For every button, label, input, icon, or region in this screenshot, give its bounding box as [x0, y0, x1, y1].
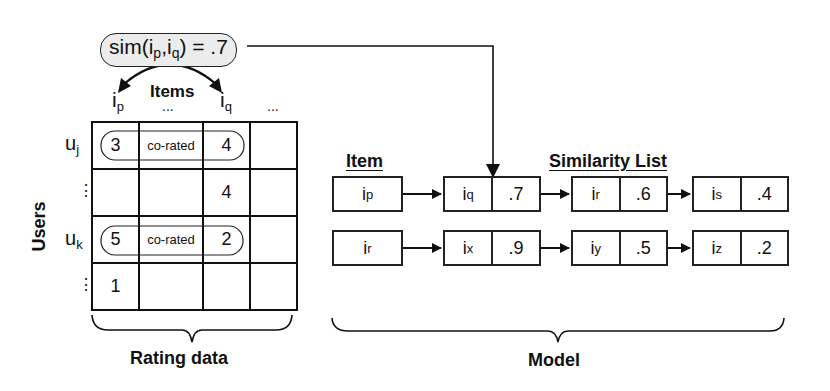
rating-cell	[250, 216, 297, 263]
model-brace	[332, 318, 784, 342]
users-axis-title: Users	[29, 201, 50, 251]
similarity-entry: iy.5	[571, 230, 668, 266]
rating-brace	[92, 315, 292, 342]
similarity-entry: ir.6	[571, 176, 668, 212]
row-header-uk: uk	[65, 227, 83, 252]
rating-cell: co-rated	[139, 122, 203, 169]
model-item-ip: ip	[332, 176, 403, 212]
rating-cell	[250, 263, 297, 310]
rating-cell	[250, 169, 297, 216]
similarity-entry: iq.7	[443, 176, 541, 212]
rating-cell: 4	[203, 169, 250, 216]
column-header-iq: iq	[220, 88, 232, 114]
model-caption: Model	[528, 350, 580, 371]
similarity-entry: is.4	[692, 176, 789, 212]
row-header-uj: uj	[65, 132, 79, 157]
model-item-ir: ir	[332, 230, 403, 266]
similarity-entry: iz.2	[692, 230, 789, 266]
rating-cell	[250, 122, 297, 169]
column-header-ip: ip	[112, 88, 124, 114]
rating-data-caption: Rating data	[130, 348, 228, 369]
similarity-entry: ix.9	[443, 230, 541, 266]
rating-cell	[139, 263, 203, 310]
rating-cell	[92, 169, 139, 216]
rating-cell: 5	[92, 216, 139, 263]
rating-cell: 1	[92, 263, 139, 310]
rating-cell: 4	[203, 122, 250, 169]
rating-cell: 2	[203, 216, 250, 263]
similarity-label: sim(ip,iq) = .7	[100, 33, 237, 67]
rating-cell	[139, 169, 203, 216]
rating-cell: 3	[92, 122, 139, 169]
rating-cell: co-rated	[139, 216, 203, 263]
item-header: Item	[346, 151, 383, 172]
similarity-list-header: Similarity List	[549, 151, 667, 172]
column-header-ellipsis-1: ...	[162, 98, 174, 114]
rating-cell	[203, 263, 250, 310]
column-header-ellipsis-2: ...	[267, 98, 279, 114]
